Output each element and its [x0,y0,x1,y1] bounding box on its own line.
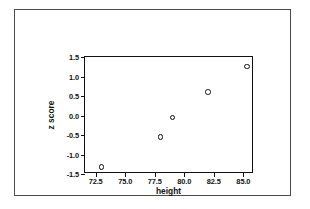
x-axis-tick [184,172,185,177]
y-axis-tick-label: 0.0 [69,111,79,120]
y-axis-tick-label: -1.0 [67,150,79,159]
x-axis-tick-label: 72.5 [89,177,103,186]
y-axis-tick-label: -1.5 [67,170,79,179]
y-axis-tick [81,174,86,175]
x-axis-tick [96,172,97,177]
y-axis-tick-label: 1.5 [69,53,79,62]
y-axis-tick-label: 1.0 [69,72,79,81]
x-axis-tick-label: 85.0 [236,177,250,186]
x-axis-tick [214,172,215,177]
y-axis-tick-label: 0.5 [69,92,79,101]
x-axis-title: height [84,186,253,196]
scatter-point [158,134,163,139]
scatter-point [244,64,249,69]
figure-outer-frame: 1.51.00.50.0-0.5-1.0-1.5 72.575.077.580.… [14,9,291,196]
x-axis-tick-label: 80.0 [177,177,191,186]
scatter-point [99,164,104,169]
x-axis-tick-label: 82.5 [207,177,221,186]
x-axis-tick [125,172,126,177]
y-axis-title-label: z score [46,100,56,129]
scatter-data-layer [85,57,252,172]
x-axis-tick [243,172,244,177]
x-axis-tick-label: 75.0 [118,177,132,186]
scatter-point [170,115,175,120]
x-axis-tick [155,172,156,177]
y-axis-title: z score [45,56,57,173]
plot-area: 1.51.00.50.0-0.5-1.0-1.5 72.575.077.580.… [84,56,253,173]
y-axis-tick-label: -0.5 [67,131,79,140]
scatter-point [205,89,210,94]
x-axis-tick-label: 77.5 [148,177,162,186]
x-axis-title-label: height [156,186,181,196]
